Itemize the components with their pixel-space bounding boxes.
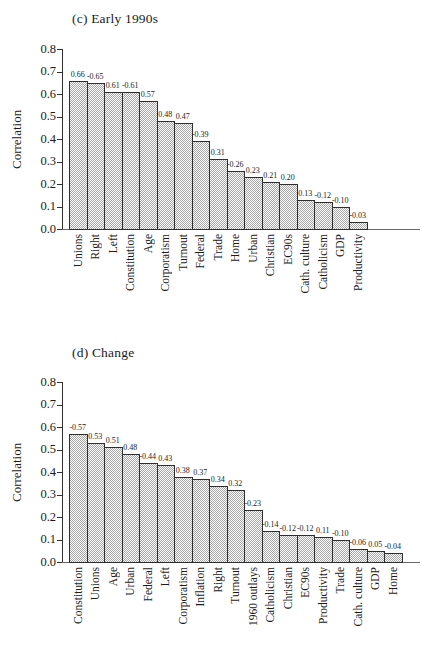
y-tick-label: 0.6 (26, 420, 56, 435)
x-category-label-gdp: GDP (333, 234, 347, 257)
x-category-label-productivity: Productivity (351, 234, 365, 291)
y-tick-mark (57, 472, 62, 473)
y-tick-label: 0.8 (26, 42, 56, 57)
x-category-label-constitution: Constitution (71, 567, 85, 624)
y-tick-mark (57, 405, 62, 406)
bar-right (87, 83, 106, 230)
bar-value-ec90s: 0.20 (270, 173, 306, 183)
bar-catholicism (262, 531, 281, 564)
bar-corporatism (157, 121, 176, 230)
y-axis-line (62, 382, 63, 562)
bar-right (209, 486, 228, 564)
bar-age (104, 447, 123, 563)
y-tick-mark (57, 117, 62, 118)
y-tick-mark (57, 382, 62, 383)
x-category-label-ec90s: EC90s (281, 234, 295, 265)
x-category-label-gdp: GDP (368, 567, 382, 590)
x-category-label-age: Age (141, 234, 155, 253)
x-category-label-christian: Christian (263, 234, 277, 276)
bar-productivity (349, 222, 368, 230)
x-category-label-constitution: Constitution (123, 234, 137, 291)
x-category-label-left: Left (106, 234, 120, 253)
bar-urban (122, 454, 141, 563)
y-tick-mark (57, 562, 62, 563)
bar-age (139, 101, 158, 230)
x-category-label-home: Home (228, 234, 242, 262)
y-tick-label: 0.2 (26, 510, 56, 525)
y-tick-mark (57, 49, 62, 50)
x-category-label-urban: Urban (123, 567, 137, 596)
y-tick-mark (57, 450, 62, 451)
x-category-label-christian: Christian (281, 567, 295, 609)
bar-unions (69, 81, 88, 231)
bar-value-turnout: 0.32 (217, 479, 253, 489)
bar-value-left: 0.43 (147, 454, 183, 464)
y-tick-mark (57, 495, 62, 496)
x-category-label-cath-culture: Cath. culture (298, 234, 312, 293)
y-tick-label: 0.4 (26, 132, 56, 147)
bar-cath-culture (349, 549, 368, 564)
y-axis-title: Correlation (9, 49, 26, 229)
y-tick-label: 0.1 (26, 199, 56, 214)
x-category-label-right: Right (88, 234, 102, 260)
x-category-label-ec90s: EC90s (298, 567, 312, 598)
bar-catholicism (314, 202, 333, 230)
bar-1960-outlays (244, 510, 263, 563)
y-axis-title: Correlation (9, 382, 26, 562)
x-category-label-trade: Trade (333, 567, 347, 593)
bar-value-age: 0.57 (130, 90, 166, 100)
y-tick-mark (57, 540, 62, 541)
chart-title: (d) Change (72, 345, 134, 361)
x-category-label-turnout: Turnout (228, 567, 242, 604)
x-category-label-unions: Unions (71, 234, 85, 267)
chart-title: (c) Early 1990s (72, 11, 158, 27)
bar-constitution (122, 92, 141, 230)
x-category-label-home: Home (386, 567, 400, 595)
x-category-label-trade: Trade (211, 234, 225, 260)
x-category-label-inflation: Inflation (193, 567, 207, 607)
x-category-label-federal: Federal (193, 234, 207, 268)
chart-panel-early-1990s: (c) Early 1990s Correlation 0.80.70.60.5… (0, 0, 447, 326)
y-tick-mark (57, 229, 62, 230)
bar-home (384, 553, 403, 563)
x-category-label-catholicism: Catholicism (263, 567, 277, 623)
bar-value-trade: 0.31 (200, 148, 236, 158)
x-category-label-corporatism: Corporatism (176, 567, 190, 625)
y-tick-label: 0.5 (26, 109, 56, 124)
bar-left (157, 465, 176, 563)
y-tick-mark (57, 162, 62, 163)
y-tick-mark (57, 94, 62, 95)
x-category-label-1960-outlays: 1960 outlays (246, 567, 260, 626)
x-category-label-urban: Urban (246, 234, 260, 263)
y-tick-label: 0.8 (26, 375, 56, 390)
bar-value-1960-outlays: -0.23 (235, 499, 271, 509)
bar-gdp (367, 551, 386, 563)
bar-unions (87, 443, 106, 563)
bar-constitution (69, 434, 88, 563)
x-category-label-catholicism: Catholicism (316, 234, 330, 290)
y-tick-label: 0.0 (26, 555, 56, 570)
x-category-label-right: Right (211, 567, 225, 593)
x-category-label-turnout: Turnout (176, 234, 190, 271)
y-tick-label: 0.7 (26, 397, 56, 412)
figure-page: (c) Early 1990s Correlation 0.80.70.60.5… (0, 0, 447, 652)
y-tick-mark (57, 184, 62, 185)
bar-value-federal: -0.39 (182, 130, 218, 140)
y-tick-label: 0.1 (26, 532, 56, 547)
chart-panel-change: (d) Change Correlation 0.80.70.60.50.40.… (0, 326, 447, 652)
bar-value-productivity: -0.03 (340, 211, 376, 221)
bar-urban (244, 177, 263, 230)
y-tick-label: 0.6 (26, 87, 56, 102)
x-category-label-age: Age (106, 567, 120, 586)
x-category-label-productivity: Productivity (316, 567, 330, 624)
bar-home (227, 171, 246, 231)
y-tick-label: 0.7 (26, 64, 56, 79)
bar-inflation (192, 479, 211, 563)
y-tick-label: 0.0 (26, 222, 56, 237)
bar-cath-culture (297, 200, 316, 230)
y-tick-label: 0.4 (26, 465, 56, 480)
bar-ec90s (297, 535, 316, 563)
y-tick-mark (57, 207, 62, 208)
y-tick-mark (57, 139, 62, 140)
bar-value-turnout: 0.47 (165, 112, 201, 122)
